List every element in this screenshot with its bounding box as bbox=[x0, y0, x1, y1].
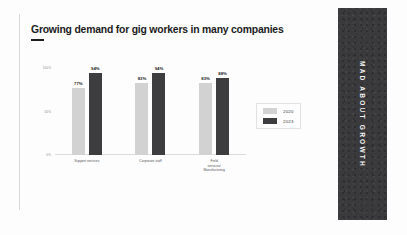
bar-2023-field-services-manufacturing[interactable]: 88% bbox=[216, 78, 229, 155]
bar-2020-support-services[interactable]: 77% bbox=[72, 88, 85, 155]
bar-wrapper: 83% bbox=[135, 68, 148, 155]
page-title: Growing demand for gig workers in many c… bbox=[31, 24, 284, 35]
legend-swatch-icon-2023 bbox=[263, 118, 277, 124]
slide-canvas: Growing demand for gig workers in many c… bbox=[0, 0, 407, 235]
category-label-corporate-staff: Corporate staff bbox=[139, 159, 161, 164]
legend-label-2023: 2023 bbox=[283, 119, 294, 124]
bar-group-field-services-manufacturing: 83% 88% Field services/ Manufacturing bbox=[199, 68, 229, 155]
bar-wrapper: 88% bbox=[216, 68, 229, 155]
legend-item-2020[interactable]: 2020 bbox=[263, 108, 294, 114]
bar-value-label: 94% bbox=[91, 66, 100, 71]
category-label-field-services-manufacturing: Field services/ Manufacturing bbox=[203, 159, 225, 173]
bar-value-label: 83% bbox=[201, 76, 210, 81]
bar-value-label: 83% bbox=[138, 76, 147, 81]
bar-wrapper: 83% bbox=[199, 68, 212, 155]
brand-panel: MAD ABOUT GROWTH bbox=[338, 8, 387, 220]
chart-legend: 2020 2023 bbox=[256, 103, 301, 129]
legend-label-2020: 2020 bbox=[283, 109, 294, 114]
legend-item-2023[interactable]: 2023 bbox=[263, 118, 294, 124]
bar-value-label: 77% bbox=[74, 81, 83, 86]
y-axis-tick-100: 100% bbox=[43, 66, 51, 70]
title-underline-accent bbox=[31, 39, 44, 41]
bar-2020-corporate-staff[interactable]: 83% bbox=[135, 83, 148, 155]
chart-plot-area: 0% 50% 100% 77% 94% Support bbox=[55, 68, 246, 155]
bar-group-support-services: 77% 94% Support services bbox=[72, 68, 102, 155]
bar-value-label: 94% bbox=[155, 66, 164, 71]
bar-wrapper: 94% bbox=[152, 68, 165, 155]
y-axis-tick-0: 0% bbox=[46, 153, 51, 157]
bar-wrapper: 94% bbox=[89, 68, 102, 155]
legend-swatch-icon-2020 bbox=[263, 108, 277, 114]
bar-wrapper: 77% bbox=[72, 68, 85, 155]
bar-chart: 0% 50% 100% 77% 94% Support bbox=[31, 62, 246, 174]
category-label-support-services: Support services bbox=[74, 159, 99, 164]
bar-groups: 77% 94% Support services 83% bbox=[55, 68, 246, 155]
bar-2023-support-services[interactable]: 94% bbox=[89, 73, 102, 155]
bar-value-label: 88% bbox=[218, 71, 227, 76]
y-axis-tick-50: 50% bbox=[45, 110, 52, 114]
brand-panel-text: MAD ABOUT GROWTH bbox=[359, 60, 366, 167]
bar-2020-field-services-manufacturing[interactable]: 83% bbox=[199, 83, 212, 155]
bar-2023-corporate-staff[interactable]: 94% bbox=[152, 73, 165, 155]
bar-group-corporate-staff: 83% 94% Corporate staff bbox=[135, 68, 165, 155]
left-vertical-rule bbox=[19, 14, 20, 210]
